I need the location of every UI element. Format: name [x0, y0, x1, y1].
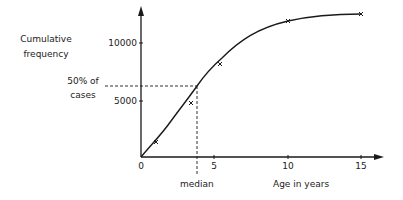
x-tick-label-15: 15 — [351, 160, 371, 172]
y-axis-arrow-icon — [138, 6, 144, 16]
x-tick-label-0: 0 — [131, 160, 151, 172]
x-tick-label-10: 10 — [278, 160, 298, 172]
y-tick-label-5000: 5000 — [97, 95, 137, 107]
x-axis-label: Age in years — [273, 178, 329, 190]
x-tick-label-5: 5 — [204, 160, 224, 172]
median-label: median — [180, 178, 214, 190]
cumulative-curve — [141, 14, 361, 157]
x-axis-arrow-icon — [374, 154, 384, 160]
y-axis-label: Cumulative frequency — [6, 33, 86, 60]
y-axis-label-line2: frequency — [6, 48, 86, 60]
y-axis-label-line1: Cumulative — [6, 33, 86, 45]
fifty-percent-line1: 50% of — [58, 75, 108, 87]
y-tick-label-10000: 10000 — [97, 37, 137, 49]
